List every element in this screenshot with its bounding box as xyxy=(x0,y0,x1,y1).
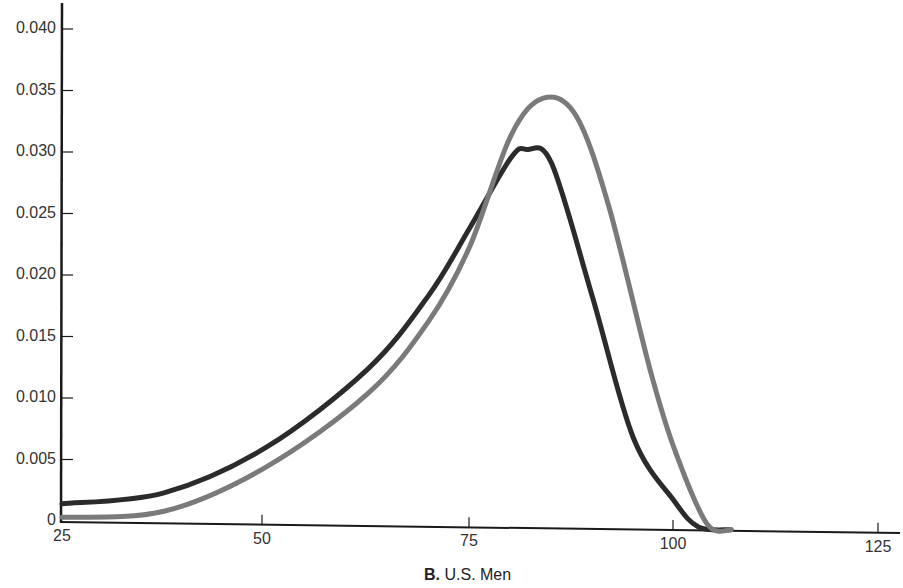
x-tick-label: 25 xyxy=(53,527,71,545)
y-tick-label: 0.010 xyxy=(0,388,56,406)
x-ticks xyxy=(262,515,878,533)
gray-curve-line xyxy=(62,97,731,531)
x-axis xyxy=(60,522,900,533)
x-tick-label: 50 xyxy=(253,530,271,548)
y-tick-label: 0 xyxy=(0,511,56,529)
chart-caption: B. U.S. Men xyxy=(424,566,511,584)
y-tick-label: 0.035 xyxy=(0,81,56,99)
density-chart xyxy=(0,0,903,588)
caption-text: U.S. Men xyxy=(444,566,511,583)
series-lines xyxy=(62,97,731,531)
y-tick-label: 0.040 xyxy=(0,19,56,37)
x-tick-label: 100 xyxy=(660,535,687,553)
y-ticks xyxy=(62,29,73,460)
y-tick-label: 0.020 xyxy=(0,265,56,283)
dark-curve-line xyxy=(62,148,731,530)
y-tick-label: 0.005 xyxy=(0,450,56,468)
y-axis xyxy=(61,3,62,523)
x-tick-label: 125 xyxy=(865,538,892,556)
axes xyxy=(60,3,900,533)
caption-label: B. xyxy=(424,566,440,583)
y-tick-label: 0.025 xyxy=(0,204,56,222)
y-tick-label: 0.015 xyxy=(0,327,56,345)
y-tick-label: 0.030 xyxy=(0,142,56,160)
x-tick-label: 75 xyxy=(460,532,478,550)
